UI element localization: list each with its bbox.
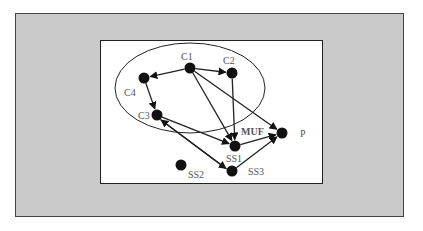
edge-c1-to-c2 bbox=[195, 69, 225, 73]
edge-c1-to-ss1 bbox=[193, 73, 232, 141]
node-ss2 bbox=[176, 160, 187, 171]
edge-ss3-to-p bbox=[236, 137, 276, 168]
label-ss2: SS2 bbox=[188, 169, 204, 180]
label-ss1: SS1 bbox=[226, 153, 242, 164]
node-c4 bbox=[139, 73, 150, 84]
edge-c3-to-ss1 bbox=[162, 117, 229, 144]
node-ss1 bbox=[230, 141, 241, 152]
node-p bbox=[277, 128, 288, 139]
label-c1: C1 bbox=[181, 51, 193, 62]
edge-c4-to-c3 bbox=[146, 83, 155, 109]
network-diagram: C1C2C4C3SS1MUFPSS2SS3 bbox=[0, 0, 423, 231]
edges bbox=[146, 69, 277, 169]
edge-c2-to-ss1 bbox=[232, 78, 235, 139]
label-c2: C2 bbox=[223, 55, 235, 66]
edge-c1-to-c4 bbox=[150, 69, 184, 76]
label-muf: MUF bbox=[241, 126, 264, 137]
node-ss3 bbox=[227, 166, 238, 177]
node-c1 bbox=[185, 63, 196, 74]
label-p: P bbox=[300, 128, 306, 139]
node-c2 bbox=[227, 68, 238, 79]
node-c3 bbox=[152, 110, 163, 121]
label-c4: C4 bbox=[124, 87, 136, 98]
label-c3: C3 bbox=[138, 110, 150, 121]
label-ss3: SS3 bbox=[248, 166, 264, 177]
edge-ss3-to-c3 bbox=[161, 120, 226, 169]
